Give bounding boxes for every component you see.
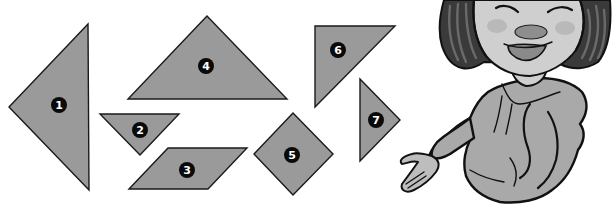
right-cheek — [555, 21, 575, 35]
tangram-figure: 1 2 3 4 5 6 7 — [0, 0, 616, 212]
piece-4-label: 4 — [202, 60, 210, 73]
piece-6-label: 6 — [334, 44, 342, 57]
piece-7-label: 7 — [372, 114, 380, 127]
open-palm-hand — [401, 153, 439, 191]
piece-3-label: 3 — [183, 164, 191, 177]
piece-3: 3 — [129, 148, 247, 189]
piece-1: 1 — [9, 24, 89, 190]
piece-5-label: 5 — [288, 149, 296, 162]
piece-6: 6 — [315, 26, 395, 107]
piece-5: 5 — [254, 113, 333, 195]
piece-4: 4 — [128, 16, 287, 99]
tangram-pieces: 1 2 3 4 5 6 7 — [9, 16, 400, 195]
piece-4-shape — [128, 16, 287, 99]
piece-6-shape — [315, 26, 395, 107]
nose — [515, 25, 547, 39]
piece-1-shape — [9, 24, 89, 190]
presenter-character — [401, 0, 611, 203]
left-cheek — [487, 19, 507, 33]
piece-2-label: 2 — [136, 124, 144, 137]
piece-7: 7 — [360, 79, 400, 161]
piece-1-label: 1 — [55, 99, 63, 112]
